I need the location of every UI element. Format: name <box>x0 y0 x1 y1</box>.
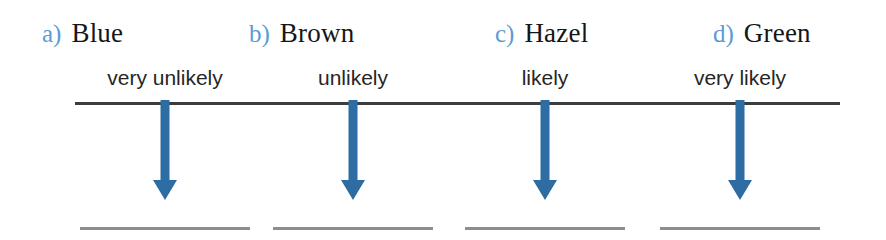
likelihood-label-unlikely: unlikely <box>318 66 388 94</box>
item-name-blue: Blue <box>71 18 123 49</box>
answer-blank-d[interactable] <box>660 227 820 230</box>
item-name-green: Green <box>744 18 811 49</box>
item-marker-c: c) <box>495 20 514 48</box>
down-arrow-icon-d <box>726 100 754 206</box>
item-name-brown: Brown <box>280 18 355 49</box>
likelihood-label-likely: likely <box>522 66 569 94</box>
item-marker-a: a) <box>42 20 61 48</box>
answer-blank-c[interactable] <box>465 227 625 230</box>
answer-blank-a[interactable] <box>80 227 250 230</box>
item-name-hazel: Hazel <box>524 18 588 49</box>
item-marker-d: d) <box>713 20 734 48</box>
answer-blank-b[interactable] <box>273 227 433 230</box>
down-arrow-icon-a <box>151 100 179 206</box>
item-heading-c: c) Hazel <box>495 18 588 54</box>
item-heading-b: b) Brown <box>249 18 354 54</box>
item-heading-a: a) Blue <box>42 18 123 54</box>
down-arrow-icon-c <box>531 100 559 206</box>
worksheet-diagram: a) Blue b) Brown c) Hazel d) Green very … <box>0 0 886 240</box>
item-heading-d: d) Green <box>713 18 811 54</box>
down-arrow-icon-b <box>339 100 367 206</box>
likelihood-label-very-likely: very likely <box>694 66 786 94</box>
likelihood-label-very-unlikely: very unlikely <box>107 66 223 94</box>
item-marker-b: b) <box>249 20 270 48</box>
